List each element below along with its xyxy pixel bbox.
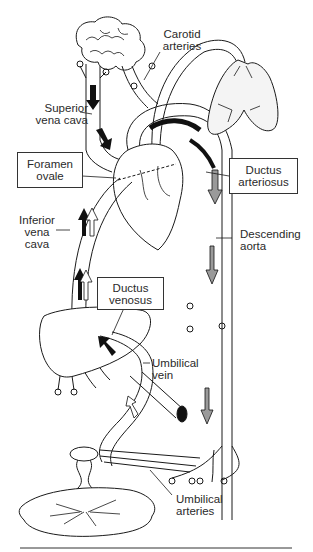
label-carotid-arteries: Carotid arteries [152,28,212,52]
heart-illustration [113,144,182,250]
label-ductus-arteriosus: Ductus arteriosus [229,158,298,194]
liver-illustration [40,307,151,377]
label-umbilical-vein: Umbilical vein [152,357,212,381]
label-superior-vena-cava: Superior vena cava [28,102,88,126]
label-umbilical-arteries: Umbilical arteries [176,493,236,517]
lungs-illustration [208,60,278,134]
carotid-arteries [122,66,158,108]
label-descending-aorta: Descending aorta [240,228,310,252]
umbilical-cord-loop [70,447,98,461]
brain-illustration [76,17,145,70]
placenta-illustration [19,488,155,537]
fetal-circulation-diagram [0,0,313,552]
umbilical-arteries [100,450,200,472]
label-ductus-venosus: Ductus venosus [97,277,164,310]
label-foramen-ovale: Foramen ovale [17,152,83,188]
superior-vena-cava [86,64,122,172]
label-inferior-vena-cava: Inferior vena cava [16,214,58,250]
